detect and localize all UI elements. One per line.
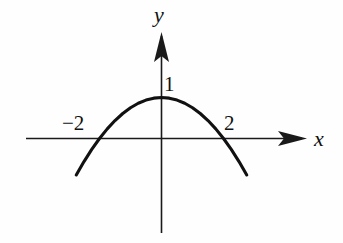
y-axis-label: y (152, 2, 164, 27)
x-axis-label: x (313, 126, 324, 151)
x-intercept-right-label: 2 (224, 111, 235, 135)
parabola-plot: 1 −2 2 x y (0, 0, 343, 243)
y-intercept-label: 1 (164, 72, 175, 96)
x-intercept-left-label: −2 (62, 111, 84, 135)
graph-figure: 1 −2 2 x y (0, 0, 343, 243)
